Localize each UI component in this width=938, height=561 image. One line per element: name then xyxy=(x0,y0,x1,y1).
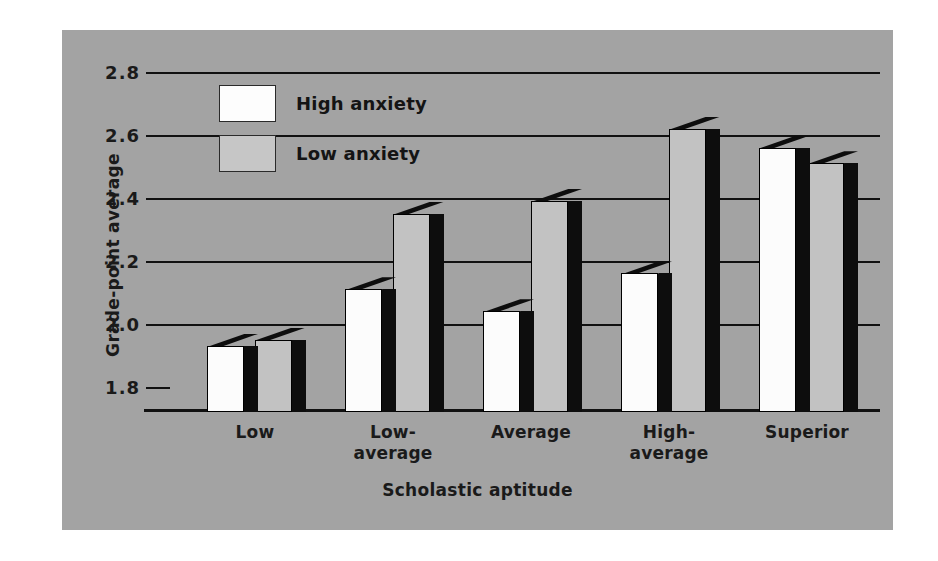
y-axis-tick-label: 2.0 xyxy=(105,313,140,334)
x-axis-group-label: Superior xyxy=(765,422,849,443)
bar-low-anxiety xyxy=(393,214,430,412)
y-axis-tick xyxy=(146,135,170,137)
y-axis-tick xyxy=(146,261,170,263)
bar-face xyxy=(393,214,430,412)
y-axis-tick-label: 2.4 xyxy=(105,187,140,208)
legend-label: High anxiety xyxy=(296,93,427,114)
bar-side-shadow xyxy=(292,340,306,412)
legend-item: High anxiety xyxy=(219,78,427,128)
y-axis-tick-label: 2.6 xyxy=(105,124,140,145)
bar-low-anxiety xyxy=(807,163,844,412)
y-axis-tick xyxy=(146,324,170,326)
x-axis-group-label: Low- average xyxy=(353,422,432,465)
bar-side-shadow xyxy=(382,289,396,412)
bar-side-shadow xyxy=(706,129,720,412)
bar-high-anxiety xyxy=(483,311,520,412)
bar-face xyxy=(759,148,796,412)
bar-face xyxy=(207,346,244,412)
legend-item: Low anxiety xyxy=(219,128,427,178)
y-axis-tick-label: 1.8 xyxy=(105,376,140,397)
legend-swatch xyxy=(219,135,276,172)
bar-face xyxy=(669,129,706,412)
bar-high-anxiety xyxy=(207,346,244,412)
figure-canvas: Grade-point average 1.82.02.22.42.62.8Lo… xyxy=(0,0,938,561)
bar-side-shadow xyxy=(658,273,672,412)
bar-side-shadow xyxy=(520,311,534,412)
bar-face xyxy=(531,201,568,412)
bar-side-shadow xyxy=(844,163,858,412)
chart-panel: Grade-point average 1.82.02.22.42.62.8Lo… xyxy=(62,30,893,530)
bar-side-shadow xyxy=(568,201,582,412)
bar-face xyxy=(807,163,844,412)
y-axis-tick xyxy=(146,198,170,200)
x-axis-title: Scholastic aptitude xyxy=(62,480,893,500)
bar-side-shadow xyxy=(244,346,258,412)
x-axis-group-label: Low xyxy=(236,422,275,443)
x-axis-group-label: High- average xyxy=(629,422,708,465)
bar-low-anxiety xyxy=(531,201,568,412)
legend-label: Low anxiety xyxy=(296,143,420,164)
y-axis-tick xyxy=(146,387,170,389)
bar-high-anxiety xyxy=(345,289,382,412)
x-axis-group-label: Average xyxy=(491,422,571,443)
chart-legend: High anxietyLow anxiety xyxy=(219,78,427,178)
bar-face xyxy=(621,273,658,412)
bar-face xyxy=(255,340,292,412)
bar-side-shadow xyxy=(796,148,810,412)
y-axis-tick-label: 2.8 xyxy=(105,62,140,83)
bar-face xyxy=(345,289,382,412)
gridline xyxy=(170,72,880,74)
bar-high-anxiety xyxy=(759,148,796,412)
y-axis-tick-label: 2.2 xyxy=(105,250,140,271)
bar-face xyxy=(483,311,520,412)
bar-side-shadow xyxy=(430,214,444,412)
bar-low-anxiety xyxy=(255,340,292,412)
legend-swatch xyxy=(219,85,276,122)
bar-low-anxiety xyxy=(669,129,706,412)
y-axis-tick xyxy=(146,72,170,74)
bar-high-anxiety xyxy=(621,273,658,412)
